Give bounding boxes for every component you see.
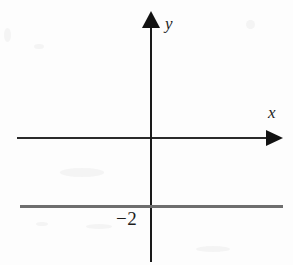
x-axis (17, 137, 272, 139)
paper-artifact (86, 224, 112, 229)
paper-artifact (60, 168, 104, 177)
plotted-line-y-equals-negative-2 (20, 205, 283, 208)
y-intercept-tick-label: −2 (116, 209, 137, 228)
paper-artifact (36, 222, 48, 226)
x-axis-arrow-icon (266, 130, 283, 146)
y-axis (150, 24, 152, 262)
paper-artifact (246, 20, 255, 29)
paper-artifact (4, 28, 11, 42)
x-axis-label: x (268, 104, 276, 121)
graph-figure: y x −2 (0, 0, 293, 265)
paper-artifact (34, 44, 44, 49)
y-axis-arrow-icon (142, 11, 160, 28)
paper-artifact (196, 246, 230, 252)
y-axis-label: y (165, 15, 173, 32)
